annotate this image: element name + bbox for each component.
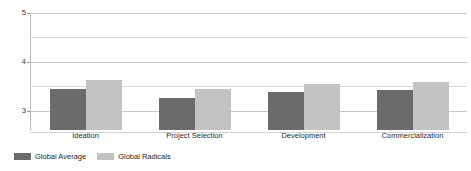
bar-group: Ideation — [34, 8, 138, 130]
y-tick-mark-5 — [27, 13, 30, 14]
bar-1-1[interactable] — [195, 89, 231, 130]
y-tick-mark-4 — [27, 62, 30, 63]
category-label: Project Selection — [166, 132, 222, 140]
category-label: Development — [281, 132, 325, 140]
y-tick-label-3: 3 — [22, 107, 26, 115]
legend-item[interactable]: Global Radicals — [97, 153, 171, 161]
y-tick-label-4: 4 — [22, 58, 26, 66]
bar-group: Project Selection — [143, 8, 247, 130]
bar-group: Commercialization — [361, 8, 465, 130]
legend-swatch-icon — [14, 153, 31, 160]
bar-0-1[interactable] — [159, 98, 195, 130]
bar-group: Development — [252, 8, 356, 130]
legend-item[interactable]: Global Average — [14, 153, 86, 161]
plot-area: 345 IdeationProject SelectionDevelopment… — [30, 8, 467, 130]
category-label: Ideation — [72, 132, 99, 140]
bar-chart: 345 IdeationProject SelectionDevelopment… — [0, 0, 471, 171]
category-label: Commercialization — [382, 132, 444, 140]
y-tick-label-5: 5 — [22, 9, 26, 17]
y-tick-mark-3 — [27, 111, 30, 112]
bar-1-0[interactable] — [86, 80, 122, 130]
bar-1-2[interactable] — [304, 84, 340, 130]
bottom-rule — [30, 132, 467, 133]
chart-legend: Global AverageGlobal Radicals — [14, 153, 171, 161]
bar-0-3[interactable] — [377, 90, 413, 130]
legend-label: Global Average — [35, 153, 86, 161]
bar-1-3[interactable] — [413, 82, 449, 130]
bar-groups: IdeationProject SelectionDevelopmentComm… — [31, 8, 467, 130]
legend-swatch-icon — [97, 153, 114, 160]
legend-label: Global Radicals — [118, 153, 171, 161]
bar-0-0[interactable] — [50, 89, 86, 130]
bar-0-2[interactable] — [268, 92, 304, 130]
